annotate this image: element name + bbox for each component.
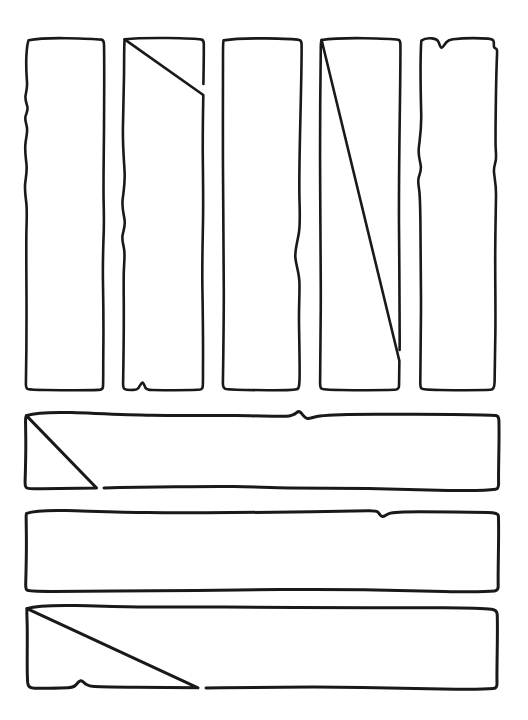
paper-background [0,0,528,720]
wireframe-sketch-canvas [0,0,528,720]
sketch-page: Hand-drawn wireframe layout sketch [0,0,528,720]
